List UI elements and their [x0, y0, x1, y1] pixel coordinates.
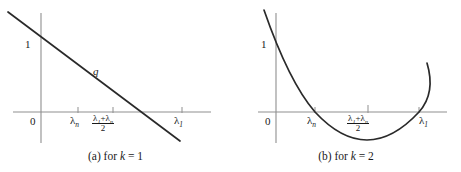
lambda-subscript: 1: [97, 119, 100, 125]
lambda-subscript: 1: [352, 119, 355, 125]
caption-equals: =: [128, 150, 135, 162]
caption-a: (a) for k = 1: [0, 150, 231, 162]
xtick-label-lambda-1: λ1: [174, 115, 183, 126]
y-intercept-label: 1: [25, 39, 31, 50]
origin-label: 0: [30, 116, 36, 127]
caption-text: for: [334, 150, 347, 162]
lambda-subscript: n: [110, 119, 113, 125]
lambda-subscript: n: [365, 119, 368, 125]
panel-a: 1 0 q λn λ1+λn 2 λ1 (a) for k = 1: [0, 0, 231, 172]
midpoint-fraction: λ1+λn 2: [92, 114, 114, 134]
xtick-label-lambda-1: λ1: [419, 115, 428, 126]
lambda-subscript: 1: [179, 120, 183, 129]
caption-variable: k: [351, 150, 356, 162]
xtick-label-lambda-n: λn: [307, 115, 316, 126]
panel-b: 1 0 λn λ1+λn 2 λ1 (b) for k = 2: [231, 0, 461, 172]
lambda-subscript: n: [312, 120, 316, 129]
caption-equals: =: [359, 150, 366, 162]
fraction-denominator: 2: [92, 124, 114, 133]
xtick-label-lambda-mid: λ1+λn 2: [92, 114, 114, 134]
fraction-denominator: 2: [347, 124, 369, 133]
caption-text: for: [104, 150, 117, 162]
caption-prefix: (a): [88, 150, 101, 162]
xtick-label-lambda-mid: λ1+λn 2: [347, 114, 369, 134]
midpoint-fraction: λ1+λn 2: [347, 114, 369, 134]
caption-b: (b) for k = 2: [231, 150, 461, 162]
lambda-subscript: n: [75, 120, 79, 129]
caption-value: 1: [137, 150, 143, 162]
y-intercept-label: 1: [261, 39, 267, 50]
curve-label-q: q: [93, 66, 99, 77]
xtick-label-lambda-n: λn: [70, 115, 79, 126]
origin-label: 0: [265, 116, 271, 127]
caption-prefix: (b): [318, 150, 331, 162]
lambda-subscript: 1: [424, 120, 428, 129]
caption-value: 2: [368, 150, 374, 162]
caption-variable: k: [120, 150, 125, 162]
figure-container: 1 0 q λn λ1+λn 2 λ1 (a) for k = 1: [0, 0, 461, 172]
